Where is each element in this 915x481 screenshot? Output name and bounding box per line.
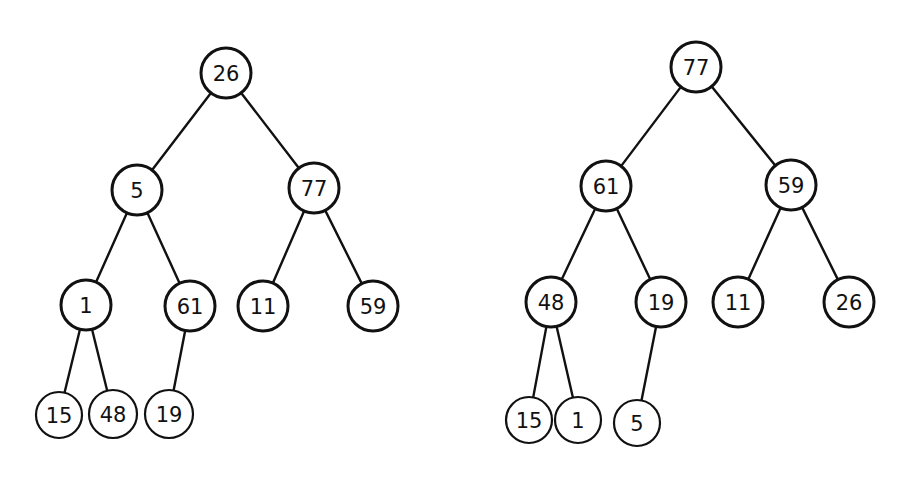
tree-edge <box>325 210 362 283</box>
tree-edge <box>748 208 780 279</box>
tree-node: 11 <box>238 281 288 331</box>
tree-edge <box>174 331 186 391</box>
tree-node: 26 <box>201 48 251 98</box>
tree-edge <box>802 207 838 279</box>
tree-edge <box>147 213 179 284</box>
node-label: 59 <box>778 174 805 198</box>
tree-edge <box>621 87 681 166</box>
node-label: 15 <box>46 404 73 428</box>
tree-node: 15 <box>506 397 552 443</box>
node-label: 48 <box>100 403 127 427</box>
tree-node: 5 <box>112 165 162 215</box>
tree-node: 61 <box>165 281 215 331</box>
tree-node: 15 <box>36 392 82 438</box>
left-tree: 265771611159154819 <box>36 48 398 438</box>
tree-node: 59 <box>348 281 398 331</box>
tree-node: 77 <box>671 42 721 92</box>
tree-edge <box>642 327 657 401</box>
node-label: 59 <box>360 295 387 319</box>
tree-node: 11 <box>713 277 763 327</box>
node-label: 11 <box>250 295 277 319</box>
tree-node: 48 <box>89 390 137 438</box>
node-label: 48 <box>538 291 565 315</box>
tree-node: 5 <box>614 400 660 446</box>
tree-edge <box>557 326 573 397</box>
tree-node: 77 <box>289 163 339 213</box>
node-label: 26 <box>836 291 863 315</box>
node-label: 11 <box>725 291 752 315</box>
tree-edge <box>96 213 127 282</box>
node-label: 61 <box>177 295 204 319</box>
tree-node: 48 <box>526 277 576 327</box>
node-label: 26 <box>213 62 240 86</box>
tree-node: 61 <box>581 161 631 211</box>
node-label: 5 <box>630 412 643 436</box>
tree-edge <box>533 327 546 398</box>
node-label: 77 <box>683 56 710 80</box>
tree-edge <box>92 329 107 390</box>
node-label: 77 <box>301 177 328 201</box>
right-tree: 776159481911261515 <box>506 42 874 446</box>
node-label: 61 <box>593 175 620 199</box>
tree-edge <box>273 211 304 283</box>
tree-edge <box>241 93 299 168</box>
tree-edge <box>65 329 81 392</box>
tree-node: 59 <box>766 160 816 210</box>
tree-node: 19 <box>636 277 686 327</box>
node-label: 15 <box>516 409 543 433</box>
tree-edge <box>562 209 596 280</box>
node-label: 19 <box>648 291 675 315</box>
tree-node: 1 <box>555 397 601 443</box>
node-label: 1 <box>79 294 92 318</box>
node-label: 1 <box>571 409 584 433</box>
tree-node: 26 <box>824 277 874 327</box>
edges-layer <box>65 87 838 401</box>
tree-edge <box>712 87 776 166</box>
tree-edge <box>617 209 651 280</box>
tree-node: 1 <box>61 280 111 330</box>
tree-node: 19 <box>145 390 193 438</box>
node-label: 19 <box>156 403 183 427</box>
diagram-canvas: 265771611159154819776159481911261515 <box>0 0 915 481</box>
tree-edge <box>152 93 211 170</box>
node-label: 5 <box>130 179 143 203</box>
